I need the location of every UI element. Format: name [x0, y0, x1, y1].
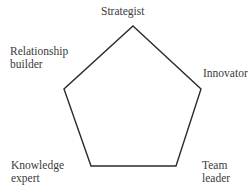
label-strategist: Strategist [101, 5, 144, 18]
label-knowledge-expert: Knowledge expert [11, 159, 64, 185]
label-innovator: Innovator [203, 67, 248, 80]
label-relationship-builder: Relationship builder [10, 45, 68, 71]
label-team-leader: Team leader [202, 159, 230, 185]
pentagon-shape [64, 26, 201, 166]
pentagon-diagram: Strategist Innovator Team leader Knowled… [0, 0, 250, 190]
